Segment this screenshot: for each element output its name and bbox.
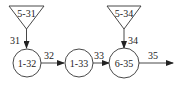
source-label-5-31: 5-31 xyxy=(17,8,35,19)
edge-label-35: 35 xyxy=(148,50,158,61)
node-label-1-32: 1-32 xyxy=(18,58,36,69)
node-label-1-33: 1-33 xyxy=(70,58,88,69)
edge-31: 31 xyxy=(10,29,27,48)
edge-label-32: 32 xyxy=(44,50,54,61)
source-label-5-34: 5-34 xyxy=(115,8,133,19)
source-triangle-5-31: 5-31 xyxy=(9,6,44,29)
node-label-6-35: 6-35 xyxy=(115,58,133,69)
source-triangle-5-34: 5-34 xyxy=(107,6,141,29)
edge-32: 32 xyxy=(41,50,64,63)
node-1-32: 1-32 xyxy=(13,49,41,77)
edge-label-34: 34 xyxy=(128,35,138,46)
edge-34: 34 xyxy=(124,29,138,48)
edge-35: 35 xyxy=(139,50,173,63)
flow-diagram: 5-31 31 1-32 32 1-33 33 5-34 34 6-35 xyxy=(0,0,178,90)
edge-label-31: 31 xyxy=(10,35,20,46)
node-6-35: 6-35 xyxy=(109,48,139,78)
node-1-33: 1-33 xyxy=(65,49,93,77)
edge-label-33: 33 xyxy=(94,50,104,61)
edge-33: 33 xyxy=(93,50,109,63)
